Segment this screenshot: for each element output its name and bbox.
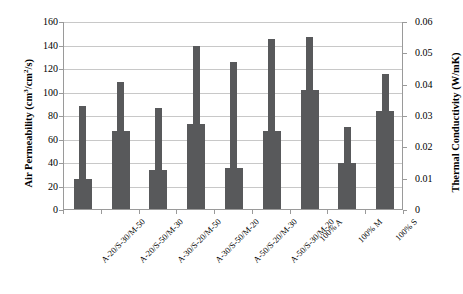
- y-axis-right-tick-label: 0.01: [415, 174, 455, 184]
- x-axis-tickmark: [252, 210, 253, 214]
- x-axis-tickmark: [63, 210, 64, 214]
- x-axis-tickmark: [214, 210, 215, 214]
- x-axis-tickmark: [327, 210, 328, 214]
- bar-group: [64, 22, 102, 209]
- bar-group: [177, 22, 215, 209]
- bar-air-permeability: [117, 82, 124, 209]
- y-axis-right-tick-label: 0.02: [415, 142, 455, 152]
- y-axis-right-tick-label: 0.06: [415, 17, 455, 27]
- bar-group: [291, 22, 329, 209]
- x-axis-tickmark: [403, 210, 404, 214]
- y-axis-left-tick-label: 100: [18, 88, 58, 98]
- bar-air-permeability: [306, 37, 313, 209]
- bar-air-permeability: [344, 127, 351, 209]
- y-axis-left-tick-label: 160: [18, 17, 58, 27]
- y-axis-left-tick-label: 120: [18, 64, 58, 74]
- y-axis-left-tick-label: 40: [18, 158, 58, 168]
- bar-air-permeability: [382, 74, 389, 209]
- y-axis-right-tick-label: 0.04: [415, 80, 455, 90]
- y-axis-left-tick-label: 80: [18, 111, 58, 121]
- x-axis-category-label: 100% S: [393, 217, 418, 242]
- x-axis-tickmark: [365, 210, 366, 214]
- bar-group: [102, 22, 140, 209]
- bar-air-permeability: [268, 39, 275, 209]
- y-axis-left-tick-label: 140: [18, 41, 58, 51]
- y-axis-right-tick-label: 0.03: [415, 111, 455, 121]
- bar-air-permeability: [230, 62, 237, 209]
- x-axis-tickmark: [176, 210, 177, 214]
- y-axis-right-tick-label: 0: [415, 205, 455, 215]
- x-axis-tickmark: [139, 210, 140, 214]
- bar-group: [253, 22, 291, 209]
- bar-group: [140, 22, 178, 209]
- y-axis-left-tick-label: 20: [18, 182, 58, 192]
- y-axis-right-tick-label: 0.05: [415, 48, 455, 58]
- x-axis-category-label: 100% M: [356, 217, 383, 244]
- chart-container: Air Permeability (cm3/cm2/s) Thermal Con…: [0, 0, 463, 294]
- bar-group: [328, 22, 366, 209]
- plot-area: [63, 22, 403, 210]
- x-axis-category-label: 100% A: [318, 217, 344, 243]
- y-axis-left-tick-label: 60: [18, 135, 58, 145]
- y-axis-left-tick-label: 0: [18, 205, 58, 215]
- x-axis-tickmark: [101, 210, 102, 214]
- bar-air-permeability: [193, 46, 200, 209]
- bar-air-permeability: [155, 108, 162, 209]
- bar-air-permeability: [79, 106, 86, 209]
- x-axis-tickmark: [290, 210, 291, 214]
- bar-group: [215, 22, 253, 209]
- bar-group: [366, 22, 404, 209]
